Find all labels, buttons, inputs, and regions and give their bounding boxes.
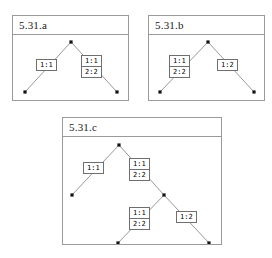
ratio-row-2: 2:2 (82, 66, 101, 77)
tree-graph-a (13, 35, 128, 100)
ratio-box-label-internal-left: 1:12:2 (129, 207, 150, 230)
tree-node-leaf-far-right (207, 241, 210, 244)
ratio-row-2: 2:2 (130, 169, 149, 180)
ratio-row-2: 2:2 (130, 218, 149, 229)
panel-c: 5.31.c1:11:12:21:12:21:2 (62, 117, 222, 245)
ratio-box-label-internal-right: 1:2 (176, 211, 197, 223)
tree-node-leaf-mid (116, 241, 119, 244)
tree-node-root (206, 40, 209, 43)
tree-node-root (117, 143, 120, 146)
ratio-row-1: 1:1 (82, 56, 101, 66)
panel-b: 5.31.b1:12:21:2 (148, 15, 265, 101)
ratio-row-1: 1:1 (130, 208, 149, 218)
ratio-box-label-root-right: 1:12:2 (129, 158, 150, 181)
panel-canvas-b: 1:12:21:2 (149, 35, 264, 100)
ratio-box-label-root-left: 1:1 (83, 162, 104, 174)
tree-node-leaf-left (70, 193, 73, 196)
tree-node-leaf-right (115, 90, 118, 93)
ratio-row-1: 1:1 (170, 56, 189, 66)
ratio-box-label-right: 1:2 (217, 59, 238, 71)
tree-node-leaf-left (23, 90, 26, 93)
panel-canvas-a: 1:11:12:2 (13, 35, 128, 100)
tree-node-internal-right (162, 193, 165, 196)
ratio-row-1: 1:1 (37, 60, 56, 70)
panel-title-b: 5.31.b (149, 16, 264, 35)
ratio-box-label-left: 1:1 (36, 59, 57, 71)
ratio-box-label-right: 1:12:2 (81, 55, 102, 78)
ratio-row-2: 2:2 (170, 66, 189, 77)
panel-canvas-c: 1:11:12:21:12:21:2 (63, 137, 221, 244)
tree-graph-b (149, 35, 264, 100)
ratio-row-1: 1:2 (177, 212, 196, 222)
ratio-box-label-left: 1:12:2 (169, 55, 190, 78)
panel-title-a: 5.31.a (13, 16, 128, 35)
panel-title-c: 5.31.c (63, 118, 221, 137)
ratio-row-1: 1:1 (84, 163, 103, 173)
tree-node-leaf-left (158, 90, 161, 93)
ratio-row-1: 1:1 (130, 159, 149, 169)
tree-node-root (69, 40, 72, 43)
ratio-row-1: 1:2 (218, 60, 237, 70)
panel-a: 5.31.a1:11:12:2 (12, 15, 129, 101)
figure-root: 5.31.a1:11:12:25.31.b1:12:21:25.31.c1:11… (0, 0, 272, 258)
tree-node-leaf-right (252, 90, 255, 93)
